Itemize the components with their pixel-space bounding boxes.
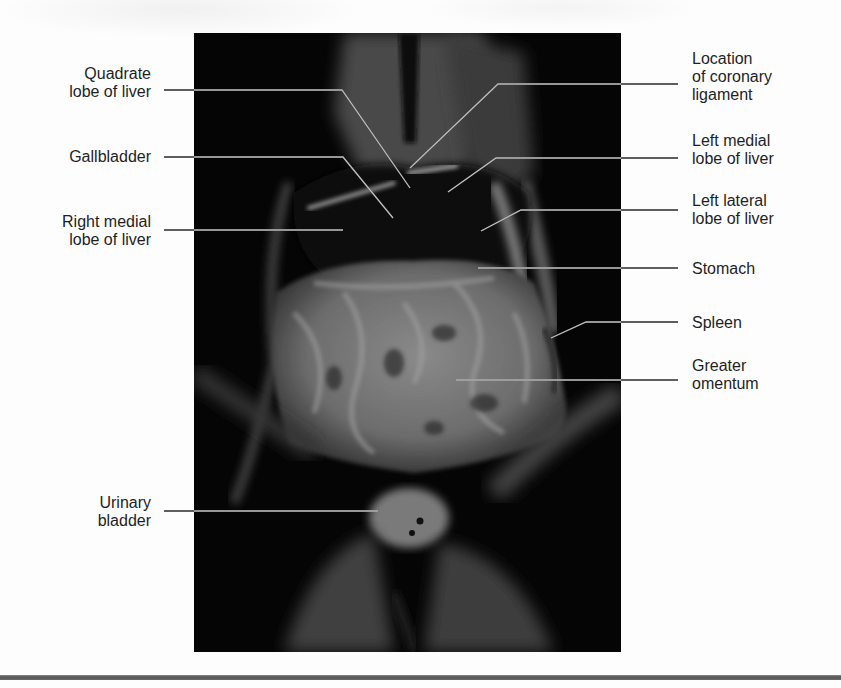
leader-left-lateral	[481, 210, 678, 231]
label-greater-omentum: Greater omentum	[692, 357, 759, 393]
leader-gallbladder	[164, 157, 393, 218]
label-stomach: Stomach	[692, 260, 755, 278]
label-right-medial-lobe: Right medial lobe of liver	[62, 213, 151, 249]
leader-left-medial	[448, 158, 678, 192]
label-left-medial-lobe: Left medial lobe of liver	[692, 132, 774, 168]
leader-quadrate	[164, 90, 410, 188]
label-quadrate-lobe: Quadrate lobe of liver	[69, 65, 151, 101]
leader-coronary	[410, 84, 678, 168]
label-coronary-ligament: Location of coronary ligament	[692, 50, 772, 104]
bottom-divider	[0, 675, 841, 680]
label-left-lateral-lobe: Left lateral lobe of liver	[692, 192, 774, 228]
label-gallbladder: Gallbladder	[69, 148, 151, 166]
label-spleen: Spleen	[692, 314, 742, 332]
label-urinary-bladder: Urinary bladder	[98, 494, 151, 530]
